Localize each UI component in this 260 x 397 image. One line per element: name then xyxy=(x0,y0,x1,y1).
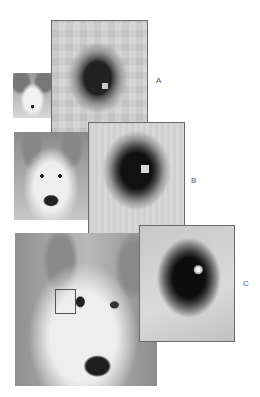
eye-selection-box xyxy=(55,289,76,314)
eye-smooth-fine xyxy=(140,226,234,341)
zoom-frame-b xyxy=(88,122,185,237)
zoom-frame-a xyxy=(51,20,148,136)
eye-pixels-medium xyxy=(89,123,184,236)
dog-photo-small xyxy=(13,73,52,118)
dog-photo-large xyxy=(15,233,157,386)
label-b: B xyxy=(191,177,196,185)
label-a: A xyxy=(156,77,161,85)
dog-photo-medium xyxy=(14,132,88,220)
eye-pixels-coarse xyxy=(52,21,147,135)
zoom-frame-c xyxy=(139,225,235,342)
label-c: C xyxy=(243,280,249,288)
